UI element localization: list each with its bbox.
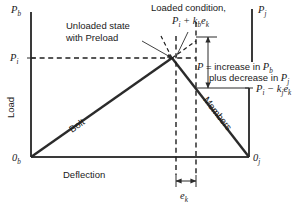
ek-dimension-label: ek (180, 190, 189, 203)
preload-axis-label: Pi (9, 52, 18, 66)
y-axis-top-label: Pb (10, 4, 21, 18)
bolt-line (31, 58, 172, 157)
left-origin-label: 0b (12, 152, 21, 166)
loaded-condition-leader-line (176, 32, 188, 57)
lower-load-expression: Pi − kjek (255, 83, 292, 97)
members-curve-label: Members (201, 94, 234, 132)
diagram-canvas: Pb Pi 0b Load Deflection 0j Pj Unloaded … (0, 0, 306, 203)
unloaded-state-label-line2: with Preload (65, 32, 118, 43)
right-origin-label: 0j (253, 152, 260, 166)
right-axis-top-label: Pj (257, 4, 266, 18)
unloaded-state-label-line1: Unloaded state (66, 20, 130, 31)
x-axis-title: Deflection (63, 169, 105, 180)
loaded-condition-expression: Pi + kbek (171, 15, 210, 29)
loaded-condition-label-line1: Loaded condition, (151, 2, 226, 13)
y-axis-title: Load (5, 97, 16, 118)
joint-diagram-svg: Pb Pi 0b Load Deflection 0j Pj Unloaded … (0, 0, 306, 203)
